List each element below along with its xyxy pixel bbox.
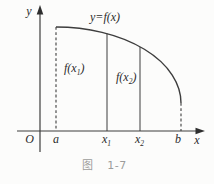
y-axis-arrow-icon: [37, 5, 44, 15]
figure-caption-prefix: 图: [82, 159, 94, 172]
origin-label: O: [25, 132, 34, 146]
y-axis-label: y: [25, 4, 32, 18]
figure-1-7: y x O y=f(x) f(x1) f(x2) a x1 x2 b 图 1-7: [0, 0, 214, 184]
tick-label-x1: x1: [101, 132, 111, 148]
fx1-close: ): [79, 61, 84, 75]
fx2-close: ): [131, 70, 136, 84]
tick-label-b: b: [175, 132, 181, 146]
tick-label-a: a: [53, 132, 59, 146]
fx2-base: f(x: [116, 70, 129, 84]
function-curve-diagram: y x O y=f(x) f(x1) f(x2) a x1 x2 b 图 1-7: [0, 0, 214, 184]
curve-equation-label: y=f(x): [89, 10, 120, 24]
x2-subscript: 2: [140, 139, 144, 148]
region-label-fx1: f(x1): [64, 61, 84, 77]
x1-subscript: 1: [107, 139, 111, 148]
tick-label-x2: x2: [134, 132, 144, 148]
x-axis-label: x: [193, 133, 200, 147]
figure-caption-number: 1-7: [107, 159, 126, 172]
fx1-base: f(x: [64, 61, 77, 75]
region-label-fx2: f(x2): [116, 70, 136, 86]
